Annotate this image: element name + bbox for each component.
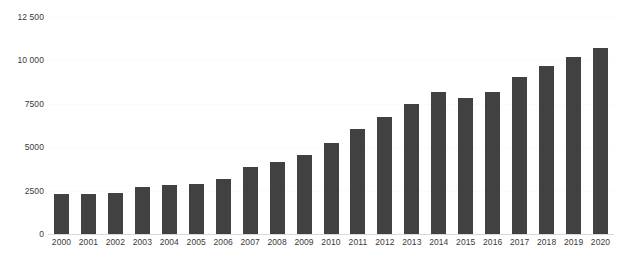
bar-chart: 025005000750010 00012 500 20002001200220… [0, 0, 622, 262]
plot-area [48, 17, 614, 234]
bar [539, 66, 554, 234]
bar-series [48, 17, 614, 234]
x-axis-tick-label: 2016 [478, 238, 508, 247]
y-axis-tick-label: 0 [0, 230, 44, 239]
bar [54, 194, 69, 234]
bar [485, 92, 500, 234]
y-axis-tick-label: 5000 [0, 143, 44, 152]
bar [108, 193, 123, 234]
x-axis-tick-label: 2019 [559, 238, 589, 247]
x-axis: 2000200120022003200420052006200720082009… [48, 238, 614, 256]
y-axis-tick-label: 10 000 [0, 56, 44, 65]
x-axis-tick-label: 2013 [397, 238, 427, 247]
x-axis-tick-label: 2018 [532, 238, 562, 247]
bar [512, 77, 527, 234]
bar [350, 129, 365, 234]
x-axis-tick-label: 2017 [505, 238, 535, 247]
x-axis-tick-label: 2007 [235, 238, 265, 247]
y-axis: 025005000750010 00012 500 [0, 0, 44, 262]
x-axis-tick-label: 2001 [73, 238, 103, 247]
bar [216, 179, 231, 234]
bar [324, 143, 339, 234]
x-axis-tick-label: 2009 [289, 238, 319, 247]
bar [135, 187, 150, 234]
y-axis-tick-label: 12 500 [0, 13, 44, 22]
x-axis-tick-label: 2015 [451, 238, 481, 247]
x-axis-tick-label: 2012 [370, 238, 400, 247]
bar [243, 167, 258, 234]
x-axis-tick-label: 2011 [343, 238, 373, 247]
x-axis-tick-label: 2014 [424, 238, 454, 247]
gridline-0 [48, 234, 614, 235]
bar [81, 194, 96, 234]
bar [297, 155, 312, 234]
bar [162, 185, 177, 234]
x-axis-tick-label: 2008 [262, 238, 292, 247]
bar [404, 104, 419, 234]
x-axis-tick-label: 2006 [208, 238, 238, 247]
bar [566, 57, 581, 234]
bar [270, 162, 285, 234]
x-axis-tick-label: 2003 [127, 238, 157, 247]
x-axis-tick-label: 2004 [154, 238, 184, 247]
bar [593, 48, 608, 234]
x-axis-tick-label: 2020 [586, 238, 616, 247]
y-axis-tick-label: 2500 [0, 186, 44, 195]
x-axis-tick-label: 2010 [316, 238, 346, 247]
bar [377, 117, 392, 234]
x-axis-tick-label: 2002 [100, 238, 130, 247]
x-axis-tick-label: 2005 [181, 238, 211, 247]
bar [458, 98, 473, 234]
x-axis-tick-label: 2000 [46, 238, 76, 247]
bar [431, 92, 446, 234]
y-axis-tick-label: 7500 [0, 100, 44, 109]
bar [189, 184, 204, 234]
